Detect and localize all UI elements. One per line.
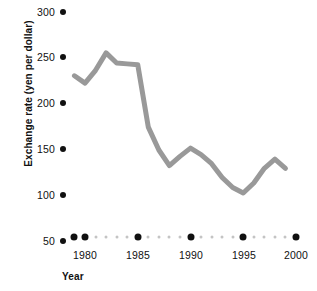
y-axis-title: Exchange rate (yen per dollar) [23,14,34,174]
y-tick-label: 250 [37,52,55,63]
x-tick-label-1995: 1995 [232,250,256,261]
data-line [74,53,285,193]
y-tick-label: 100 [37,190,55,201]
y-tick-label: 50 [43,236,55,247]
x-tick-label-1990: 1990 [179,250,203,261]
data-line-svg [56,0,317,291]
y-tick-label: 300 [37,7,55,18]
x-tick-label-1980: 1980 [73,250,97,261]
exchange-rate-line-chart: 300 250 200 150 100 50 Exchange rate (ye… [0,0,317,291]
x-tick-label-2000: 2000 [284,250,308,261]
x-tick-label-1985: 1985 [126,250,150,261]
x-axis-title: Year [62,271,84,282]
plot-area [56,0,317,291]
y-tick-label: 200 [37,98,55,109]
y-tick-label: 150 [37,144,55,155]
